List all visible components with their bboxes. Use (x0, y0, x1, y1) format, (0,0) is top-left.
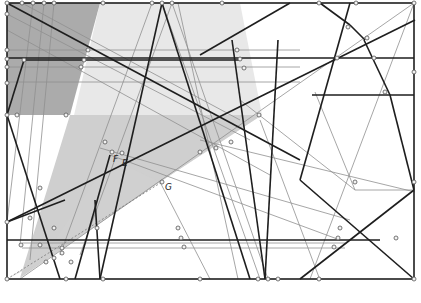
label-f: F (113, 154, 119, 164)
geometric-diagram: F E G (0, 0, 421, 303)
label-e: E (122, 158, 128, 168)
label-g: G (165, 182, 172, 192)
